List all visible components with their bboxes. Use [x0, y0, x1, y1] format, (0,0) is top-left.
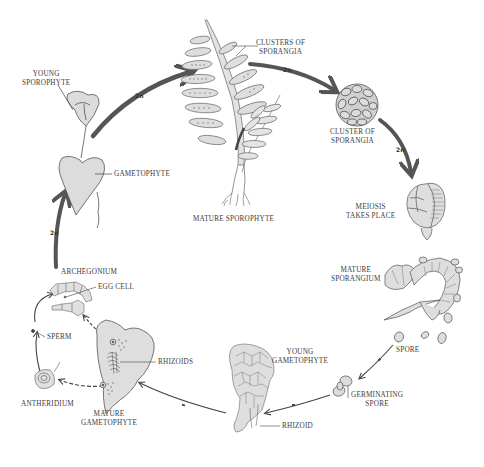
label-egg-cell: EGG CELL	[98, 283, 134, 292]
mature-sporangium-illustration	[384, 257, 463, 344]
arrow-gametophyte-to-sporophyte	[93, 72, 190, 136]
arrow-spore-to-germinating	[360, 345, 393, 378]
arrow-germinating-to-young-gametophyte	[266, 395, 330, 413]
label-germinating-spore: GERMINATING SPORE	[351, 391, 403, 408]
label-antheridium: ANTHERIDIUM	[21, 400, 74, 409]
ploidy-mark-2n: 2n	[283, 66, 291, 73]
label-cluster-of-sporangia: CLUSTER OF SPORANGIA	[330, 128, 375, 145]
arrow-antheridium-to-sperm	[36, 333, 40, 372]
arrow-young-gametophyte-to-mature	[140, 383, 226, 413]
label-mature-sporophyte: MATURE SPOROPHYTE	[193, 215, 274, 224]
label-sperm: SPERM	[47, 333, 72, 342]
mature-gametophyte-illustration	[96, 320, 156, 414]
archegonium-illustration	[50, 282, 96, 316]
dashed-arrow-to-antheridium	[60, 380, 103, 386]
fern-life-cycle-diagram: 2n 2n 2n 2n YOUNG SPOROPHYTE GAMETOPHYTE…	[0, 0, 484, 467]
arrow-sperm-to-archegonium	[35, 294, 52, 322]
label-mature-gametophyte: MATURE GAMETOPHYTE	[81, 410, 137, 427]
cluster-of-sporangia-illustration	[336, 84, 378, 126]
label-young-sporophyte: YOUNG SPOROPHYTE	[22, 70, 70, 87]
label-young-gametophyte: YOUNG GAMETOPHYTE	[272, 348, 328, 365]
label-mature-sporangium: MATURE SPORANGIUM	[331, 266, 381, 283]
ploidy-mark-2n: 2n	[396, 146, 404, 153]
label-gametophyte: GAMETOPHYTE	[114, 170, 170, 179]
ploidy-mark-2n: 2n	[50, 229, 58, 236]
young-sporophyte-illustration	[67, 91, 99, 158]
label-clusters-of-sporangia: CLUSTERS OF SPORANGIA	[256, 39, 305, 56]
sperm-illustration	[32, 330, 45, 337]
meiosis-sporangium-illustration	[407, 183, 445, 240]
diagram-artwork	[0, 0, 484, 467]
gametophyte-illustration	[59, 156, 112, 228]
germinating-spore-illustration	[332, 375, 353, 398]
label-rhizoids: RHIZOIDS	[158, 358, 193, 367]
label-rhizoid: RHIZOID	[282, 422, 313, 431]
label-archegonium: ARCHEGONIUM	[61, 268, 117, 277]
label-meiosis-takes-place: MEIOSIS TAKES PLACE	[346, 203, 395, 220]
ploidy-mark-2n: 2n	[135, 92, 143, 99]
label-spore: SPORE	[396, 346, 419, 355]
